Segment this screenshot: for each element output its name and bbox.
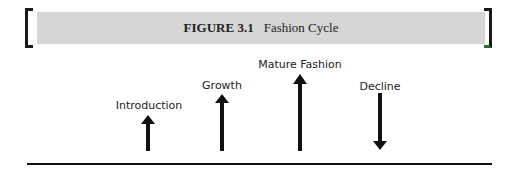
- down-arrow-icon: [373, 93, 387, 150]
- baseline: [27, 163, 492, 165]
- up-arrow-icon: [215, 94, 229, 151]
- arrows: [0, 0, 522, 169]
- up-arrow-icon: [293, 74, 307, 151]
- up-arrow-icon: [141, 115, 155, 151]
